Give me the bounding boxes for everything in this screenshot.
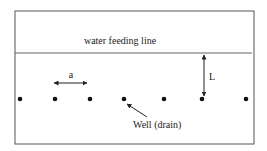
spacing-label: a: [69, 69, 74, 80]
well-pointer-arrow: [127, 104, 147, 117]
well-dot: [122, 97, 127, 102]
well-dot: [18, 97, 23, 102]
distance-label: L: [209, 71, 215, 82]
well-label: Well (drain): [133, 119, 181, 131]
well-dot: [53, 97, 58, 102]
well-dot: [88, 97, 93, 102]
well-dot: [200, 97, 205, 102]
wells-row: [18, 97, 249, 102]
well-drainage-diagram: water feeding line a L Well (drain): [0, 0, 267, 151]
well-dot: [244, 97, 249, 102]
well-dot: [162, 97, 167, 102]
feeding-line-label: water feeding line: [84, 35, 157, 46]
